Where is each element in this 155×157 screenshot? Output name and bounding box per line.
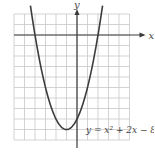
x-axis-arrow-icon: [140, 33, 146, 38]
grid-lines: [14, 14, 130, 140]
y-axis-label: y: [73, 0, 80, 10]
x-axis-label: x: [149, 30, 155, 41]
equation-label: y = x² + 2x − 8: [85, 125, 154, 135]
parabola-chart: x y y = x² + 2x − 8: [0, 0, 154, 157]
